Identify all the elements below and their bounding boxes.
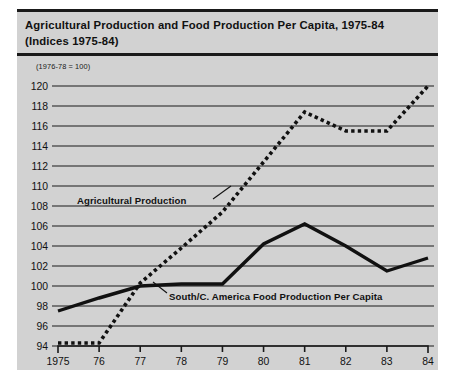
chart-title-bar: Agricultural Production and Food Product… (17, 9, 438, 56)
y-axis-tick-label: 118 (31, 101, 48, 112)
y-axis-tick-label: 106 (31, 221, 49, 232)
x-axis-tick-label: 83 (381, 356, 393, 367)
series-line-agricultural-production (58, 86, 428, 343)
annotation-agricultural-production-leader (213, 186, 231, 199)
x-axis-tick-label: 77 (134, 356, 146, 367)
x-axis-tick-label: 82 (340, 356, 352, 367)
x-axis-group (58, 346, 428, 353)
plot-area: (1976-78 = 100) 949698100102104106108110… (17, 56, 438, 370)
y-axis-tick-label: 100 (31, 281, 49, 292)
figure-panel: Agricultural Production and Food Product… (17, 9, 438, 370)
x-axis-tick-label: 76 (93, 356, 105, 367)
y-axis-tick-label: 120 (31, 81, 49, 92)
y-axis-tick-label: 98 (36, 301, 48, 312)
data-series-group (58, 86, 428, 343)
page-title: Agricultural Production and Food Product… (25, 18, 430, 34)
annotation-food-production-per-capita: South/C. America Food Production Per Cap… (169, 291, 383, 302)
x-axis-tick-label: 80 (258, 356, 270, 367)
x-axis-tick-label: 84 (422, 356, 434, 367)
x-axis-tick-label: 81 (299, 356, 311, 367)
y-axis-tick-label: 96 (36, 321, 48, 332)
y-axis-tick-label: 104 (31, 241, 49, 252)
y-axis-tick-label: 94 (36, 341, 48, 352)
y-axis-tick-label: 112 (31, 161, 48, 172)
y-axis-tick-label: 108 (31, 201, 49, 212)
y-axis-tick-label: 116 (31, 121, 48, 132)
annotation-agricultural-production: Agricultural Production (77, 195, 186, 206)
y-axis-tick-label: 110 (31, 181, 48, 192)
y-axis-tick-labels: 949698100102104106108110112114116118120 (31, 81, 49, 352)
x-axis-tick-labels: 1975767778798081828384 (46, 356, 434, 367)
gridlines-group (52, 86, 434, 346)
x-axis-line (58, 346, 428, 353)
x-axis-tick-label: 78 (176, 356, 188, 367)
page-subtitle: (Indices 1975-84) (25, 34, 430, 50)
x-axis-tick-label: 79 (217, 356, 229, 367)
line-chart: 949698100102104106108110112114116118120 … (17, 56, 438, 370)
x-axis-tick-label: 1975 (46, 356, 69, 367)
y-axis-tick-label: 102 (31, 261, 49, 272)
y-axis-tick-label: 114 (31, 141, 48, 152)
